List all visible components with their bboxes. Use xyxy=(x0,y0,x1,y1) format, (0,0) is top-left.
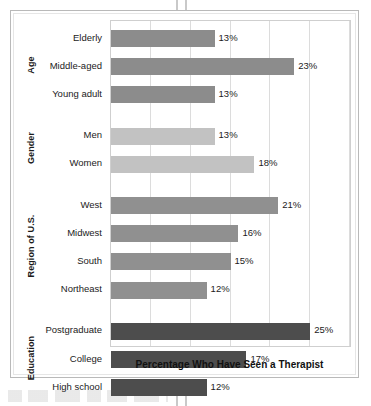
bar-chart: Percentage Who Have Seen a Therapist 13%… xyxy=(0,0,371,406)
bar xyxy=(111,86,215,103)
bar-value-label: 13% xyxy=(219,130,238,140)
bar-value-label: 13% xyxy=(219,33,238,43)
bar xyxy=(111,128,215,145)
bar xyxy=(111,282,207,299)
x-axis-title: Percentage Who Have Seen a Therapist xyxy=(110,359,349,370)
bar-value-label: 23% xyxy=(298,61,317,71)
gridline xyxy=(349,21,350,346)
group-label: Gender xyxy=(26,116,36,181)
bar-value-label: 25% xyxy=(314,325,333,335)
bar-value-label: 13% xyxy=(219,89,238,99)
bar xyxy=(111,30,215,47)
bar-value-label: 17% xyxy=(250,354,269,364)
bar-value-label: 12% xyxy=(211,284,230,294)
category-label: Middle-aged xyxy=(0,61,102,71)
bar-value-label: 15% xyxy=(235,256,254,266)
bar-value-label: 12% xyxy=(211,382,230,392)
category-label: South xyxy=(0,256,102,266)
bar xyxy=(111,379,207,396)
group-label: Age xyxy=(26,18,36,111)
category-label: Postgraduate xyxy=(0,325,102,335)
category-label: West xyxy=(0,200,102,210)
category-label: Elderly xyxy=(0,33,102,43)
category-label: Men xyxy=(0,130,102,140)
category-label: Women xyxy=(0,158,102,168)
bar-value-label: 18% xyxy=(258,158,277,168)
category-label: Young adult xyxy=(0,89,102,99)
bar xyxy=(111,156,254,173)
group-label: Region of U.S. xyxy=(26,185,36,307)
group-label: Education xyxy=(26,311,36,404)
category-label: College xyxy=(0,354,102,364)
bar-value-label: 16% xyxy=(242,228,261,238)
bar xyxy=(111,253,231,270)
category-label: Northeast xyxy=(0,284,102,294)
category-label: Midwest xyxy=(0,228,102,238)
bar xyxy=(111,58,294,75)
bar xyxy=(111,225,238,242)
bar-value-label: 21% xyxy=(282,200,301,210)
bar xyxy=(111,197,278,214)
category-label: High school xyxy=(0,382,102,392)
bar xyxy=(111,323,310,340)
